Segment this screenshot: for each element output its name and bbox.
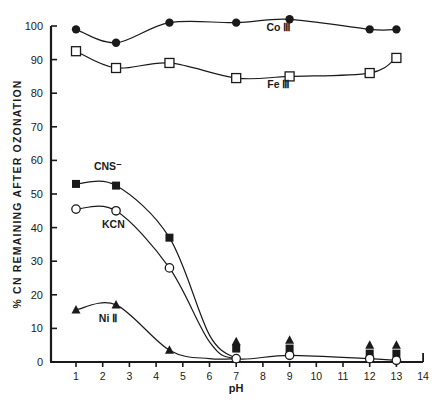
series-labels: Co ⅢFe ⅢCNS⁻KCNNi Ⅱ [94,21,291,324]
x-tick-label: 1 [73,370,79,382]
open-square-marker [72,47,81,56]
y-tick-label: 100 [25,20,43,32]
filled-square-marker [112,182,120,190]
filled-circle-marker [366,25,374,33]
y-tick-label: 10 [31,322,43,334]
open-circle-marker [72,205,80,213]
y-tick-label: 60 [31,154,43,166]
y-tick-label: 40 [31,222,43,234]
open-circle-marker [165,264,173,272]
x-axis-label: pH [229,382,244,394]
open-square-marker [112,64,121,73]
x-tick-label: 9 [287,370,293,382]
x-tick-label: 3 [126,370,132,382]
label-kcn: KCN [102,218,125,230]
x-tick-label: 5 [180,370,186,382]
open-square-marker [392,53,401,62]
open-circle-marker [232,354,240,362]
x-tick-label: 4 [153,370,159,382]
filled-triangle-marker [392,340,401,349]
filled-circle-marker [72,25,80,33]
x-tick-label: 2 [100,370,106,382]
x-tick-label: 13 [391,370,403,382]
y-tick-label: 20 [31,289,43,301]
x-tick-label: 6 [207,370,213,382]
x-tick-label: 12 [364,370,376,382]
filled-triangle-marker [165,345,174,354]
label-niii: Ni Ⅱ [99,312,117,324]
x-tick-label: 11 [338,370,349,382]
x-tick-label: 7 [233,370,239,382]
y-tick-label: 70 [31,121,43,133]
filled-circle-marker [112,39,120,47]
open-circle-marker [392,356,400,364]
filled-triangle-marker [365,340,374,349]
y-tick-label: 50 [31,188,43,200]
filled-triangle-marker [285,335,294,344]
y-axis-label: % CN REMAINING AFTER OZONATION [11,79,23,308]
filled-square-marker [232,345,240,353]
y-tick-label: 90 [31,54,43,66]
filled-circle-marker [392,25,400,33]
open-square-marker [365,69,374,78]
open-circle-marker [285,351,293,359]
filled-square-marker [165,234,173,242]
filled-triangle-marker [232,337,241,346]
filled-circle-marker [232,18,240,26]
open-square-marker [165,58,174,67]
y-tick-label: 0 [37,356,43,368]
label-cns: CNS⁻ [94,160,122,172]
label-feiii: Fe Ⅲ [267,78,290,90]
filled-circle-marker [165,18,173,26]
y-tick-label: 30 [31,255,43,267]
y-tick-label: 80 [31,87,43,99]
open-circle-marker [112,207,120,215]
series-curves [76,19,396,360]
open-circle-marker [366,354,374,362]
open-square-marker [232,74,241,83]
chart: 0102030405060708090100123456789101112131… [0,0,441,410]
x-tick-label: 8 [260,370,266,382]
x-tick-label: 14 [417,370,429,382]
series-markers [72,15,401,364]
filled-square-marker [72,180,80,188]
label-coiii: Co Ⅲ [266,21,291,33]
curve-cns [76,181,236,358]
x-tick-label: 10 [310,370,322,382]
